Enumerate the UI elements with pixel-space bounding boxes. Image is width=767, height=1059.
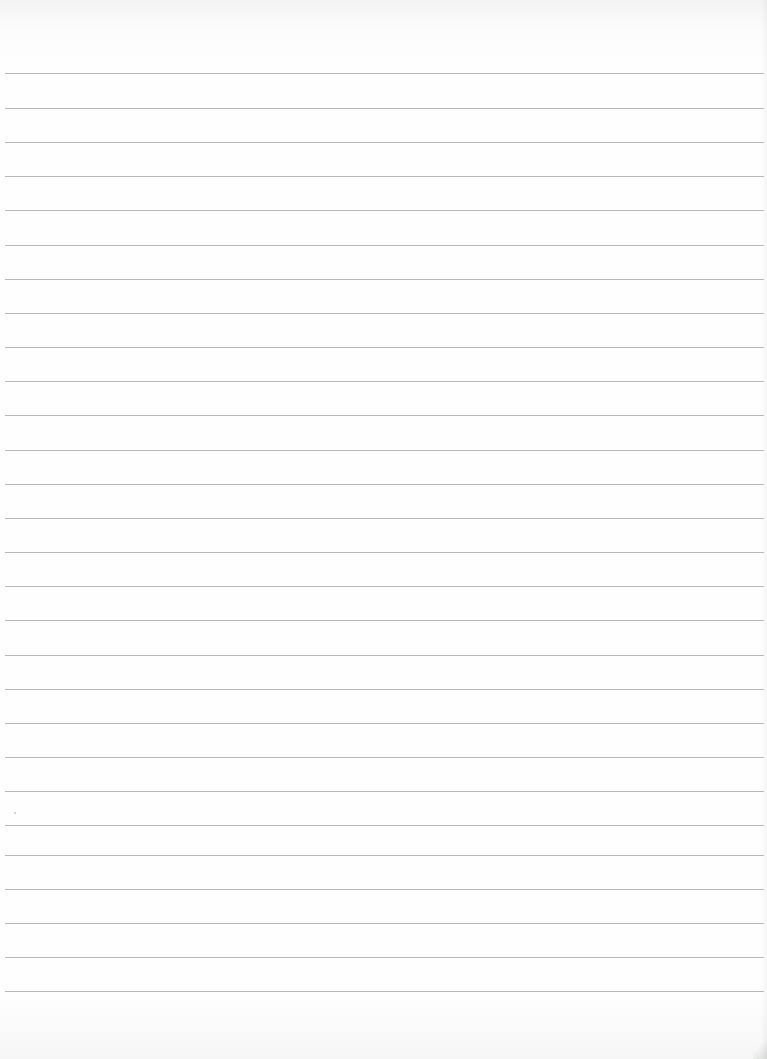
ruled-line xyxy=(5,279,764,280)
ruled-line xyxy=(5,108,764,109)
ruled-line xyxy=(5,791,764,792)
ruled-line xyxy=(5,313,764,314)
ruled-line xyxy=(5,855,764,856)
ruled-line xyxy=(5,415,764,416)
ruled-line xyxy=(5,552,764,553)
ruled-line xyxy=(5,723,764,724)
ruled-line xyxy=(5,381,764,382)
ruled-line xyxy=(5,825,764,826)
ruled-line xyxy=(5,176,764,177)
ruled-line xyxy=(5,484,764,485)
ruled-line xyxy=(5,73,764,74)
ruled-line xyxy=(5,210,764,211)
ruled-line xyxy=(5,957,764,958)
ruled-line xyxy=(5,620,764,621)
ruled-line xyxy=(5,586,764,587)
ruled-line xyxy=(5,245,764,246)
ruled-line xyxy=(5,347,764,348)
ruled-line xyxy=(5,757,764,758)
ruled-line xyxy=(5,655,764,656)
page-edge-shadow xyxy=(761,0,767,1059)
ruled-line xyxy=(5,518,764,519)
page-corner-smudge xyxy=(753,1037,767,1059)
ruled-line xyxy=(5,923,764,924)
ruled-line xyxy=(5,991,764,992)
notebook-page xyxy=(0,0,767,1059)
ruled-line xyxy=(5,889,764,890)
paper-speck xyxy=(14,812,16,814)
ruled-line xyxy=(5,142,764,143)
ruled-line xyxy=(5,450,764,451)
ruled-line xyxy=(5,689,764,690)
